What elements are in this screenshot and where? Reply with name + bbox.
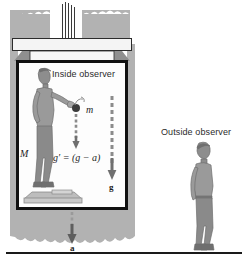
effective-gravity-equation: g′ = (g − a) (53, 152, 100, 163)
ball-fall-arrow (72, 114, 82, 150)
person-mass-label: M (20, 148, 28, 159)
outside-observer-figure (185, 140, 227, 255)
hoist-cable (74, 7, 75, 38)
ball-mass-label: m (86, 104, 93, 115)
inside-observer-label: Inside observer (52, 69, 115, 79)
ground-line (6, 252, 242, 254)
acceleration-label: a (70, 243, 75, 253)
hoist-cable (65, 2, 66, 38)
outside-observer-label: Outside observer (161, 127, 231, 137)
gravity-arrow (107, 96, 119, 182)
gravity-label: g (109, 182, 114, 192)
hoist-cable (68, 3, 69, 38)
hoist-cable (71, 5, 72, 38)
diagram-canvas: Inside observer Outside observer M m g′ … (0, 0, 248, 266)
acceleration-arrow (66, 212, 80, 246)
hoist-cable (62, 4, 63, 38)
scale-platform (22, 186, 86, 204)
